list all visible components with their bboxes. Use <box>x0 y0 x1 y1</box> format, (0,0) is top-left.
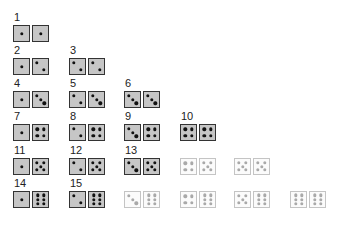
die-face-6-icon <box>290 191 307 208</box>
die-face-4-icon <box>180 158 197 175</box>
die-face-6-icon <box>199 191 216 208</box>
pip-icon <box>244 201 247 204</box>
pip-icon <box>42 202 45 205</box>
die-face-5-icon <box>234 191 251 208</box>
pip-icon <box>190 168 193 171</box>
pip-icon <box>257 202 260 205</box>
pip-icon <box>91 134 94 137</box>
die-face-6-icon <box>253 191 270 208</box>
dice-pair: 15 <box>69 179 109 211</box>
pip-icon <box>263 202 266 205</box>
dice-pair: 9 <box>124 112 164 144</box>
pip-icon <box>98 202 101 205</box>
pip-icon <box>257 194 260 197</box>
pip-icon <box>202 127 205 130</box>
pip-icon <box>190 201 193 204</box>
die-face-2-icon <box>32 58 49 75</box>
die-face-1-icon <box>13 25 30 42</box>
pip-icon <box>319 202 322 205</box>
pip-icon <box>313 202 316 205</box>
pip-icon <box>92 202 95 205</box>
pip-icon <box>263 194 266 197</box>
pair-number-label: 6 <box>125 78 131 89</box>
dice-pair <box>124 179 164 211</box>
pip-icon <box>20 165 23 168</box>
pip-icon <box>72 127 75 130</box>
dice-pair: 11 <box>13 146 53 178</box>
die-face-5-icon <box>143 158 160 175</box>
pair-number-label: 12 <box>70 145 82 156</box>
pip-icon <box>36 202 39 205</box>
pip-icon <box>72 94 75 97</box>
pip-icon <box>153 134 156 137</box>
pip-icon <box>209 127 212 130</box>
pip-icon <box>190 161 193 164</box>
die-face-1-icon <box>32 25 49 42</box>
die-face-3-icon <box>88 91 105 108</box>
pip-icon <box>42 168 45 171</box>
pip-icon <box>260 165 263 168</box>
die-face-1-icon <box>13 58 30 75</box>
pip-icon <box>135 202 138 205</box>
die-face-6-icon <box>32 191 49 208</box>
pip-icon <box>153 198 156 201</box>
die-face-4-icon <box>32 124 49 141</box>
pair-number-label: 14 <box>14 178 26 189</box>
pip-icon <box>91 161 94 164</box>
pip-icon <box>190 194 193 197</box>
die-face-4-icon <box>199 124 216 141</box>
pip-icon <box>147 198 150 201</box>
pip-icon <box>36 198 39 201</box>
pip-icon <box>147 194 150 197</box>
pip-icon <box>79 134 82 137</box>
pip-icon <box>237 201 240 204</box>
pip-icon <box>127 94 130 97</box>
pip-icon <box>135 135 138 138</box>
pip-icon <box>183 134 186 137</box>
pip-icon <box>313 198 316 201</box>
pip-icon <box>95 98 98 101</box>
pip-icon <box>35 127 38 130</box>
pip-icon <box>241 198 244 201</box>
pip-icon <box>263 198 266 201</box>
dice-pair: 10 <box>180 112 220 144</box>
pip-icon <box>20 198 23 201</box>
die-face-5-icon <box>88 158 105 175</box>
pair-number-label: 5 <box>70 78 76 89</box>
pip-icon <box>183 127 186 130</box>
die-face-2-icon <box>69 124 86 141</box>
die-face-1-icon <box>13 191 30 208</box>
pip-icon <box>91 168 94 171</box>
pip-icon <box>183 201 186 204</box>
pip-icon <box>79 168 82 171</box>
die-face-1-icon <box>13 91 30 108</box>
die-face-5-icon <box>199 158 216 175</box>
pip-icon <box>42 134 45 137</box>
pair-number-label: 3 <box>70 45 76 56</box>
pip-icon <box>319 198 322 201</box>
pip-icon <box>20 32 23 35</box>
pip-icon <box>241 165 244 168</box>
pip-icon <box>294 194 297 197</box>
pip-icon <box>20 131 23 134</box>
pip-icon <box>300 194 303 197</box>
pair-number-label: 15 <box>70 178 82 189</box>
die-face-6-icon <box>143 191 160 208</box>
dice-pair: 12 <box>69 146 109 178</box>
pip-icon <box>183 161 186 164</box>
pair-number-label: 10 <box>181 111 193 122</box>
pip-icon <box>146 127 149 130</box>
pip-icon <box>98 161 101 164</box>
pip-icon <box>98 198 101 201</box>
pip-icon <box>153 194 156 197</box>
pair-number-label: 9 <box>125 111 131 122</box>
dice-pair: 14 <box>13 179 53 211</box>
pip-icon <box>20 65 23 68</box>
pip-icon <box>183 168 186 171</box>
pip-icon <box>72 194 75 197</box>
pip-icon <box>91 94 94 97</box>
die-face-2-icon <box>69 91 86 108</box>
pip-icon <box>42 198 45 201</box>
dice-pair: 5 <box>69 79 109 111</box>
pip-icon <box>35 94 38 97</box>
